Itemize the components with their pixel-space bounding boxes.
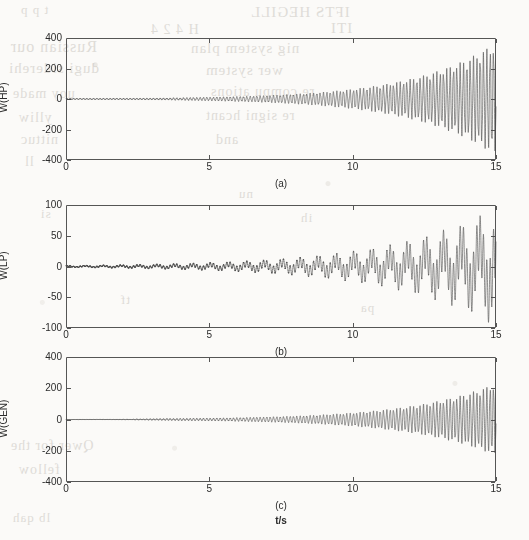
panel-b-plot-canvas — [60, 199, 502, 334]
panel-c-plot-canvas — [60, 351, 502, 488]
panel-b-y-tick-label: 100 — [28, 199, 62, 210]
panel-c-y-tick-label: 400 — [28, 351, 62, 362]
panel-a-x-tick-label: 15 — [484, 161, 508, 172]
panel-b-x-tick-label: 10 — [341, 329, 365, 340]
panel-c-y-axis-label: W(GEN) — [0, 383, 9, 453]
panel-c-y-tick-label: 200 — [28, 382, 62, 393]
panel-c-x-tick-label: 5 — [197, 483, 221, 494]
panel-a-x-tick-label: 10 — [341, 161, 365, 172]
panel-b-y-tick-label: 0 — [28, 261, 62, 272]
panel-c-x-tick-label: 15 — [484, 483, 508, 494]
panel-b-y-tick-label: 50 — [28, 230, 62, 241]
figure-three-panel-torsional-oscillations: -400-2000200400051015W(HP)(a)-100-500501… — [0, 0, 529, 540]
panel-c-y-tick-label: -200 — [28, 445, 62, 456]
panel-b-y-axis-label: W(LP) — [0, 230, 9, 300]
x-axis-label: t/s — [261, 515, 301, 526]
panel-b-y-tick-label: -50 — [28, 291, 62, 302]
panel-c-caption: (c) — [261, 500, 301, 511]
panel-a-y-axis-label: W(HP) — [0, 63, 9, 133]
panel-a-caption: (a) — [261, 178, 301, 189]
panel-a-y-tick-label: -200 — [28, 124, 62, 135]
panel-a-y-tick-label: 200 — [28, 63, 62, 74]
panel-b-x-tick-label: 5 — [197, 329, 221, 340]
panel-b — [66, 205, 496, 328]
panel-a-x-tick-label: 5 — [197, 161, 221, 172]
panel-a-x-tick-label: 0 — [54, 161, 78, 172]
panel-a-plot-canvas — [60, 32, 502, 166]
panel-c-x-tick-label: 10 — [341, 483, 365, 494]
panel-a-y-tick-label: 400 — [28, 32, 62, 43]
panel-b-x-tick-label: 15 — [484, 329, 508, 340]
panel-c — [66, 357, 496, 482]
panel-c-x-tick-label: 0 — [54, 483, 78, 494]
panel-c-y-tick-label: 0 — [28, 414, 62, 425]
panel-a — [66, 38, 496, 160]
panel-a-y-tick-label: 0 — [28, 93, 62, 104]
panel-b-x-tick-label: 0 — [54, 329, 78, 340]
